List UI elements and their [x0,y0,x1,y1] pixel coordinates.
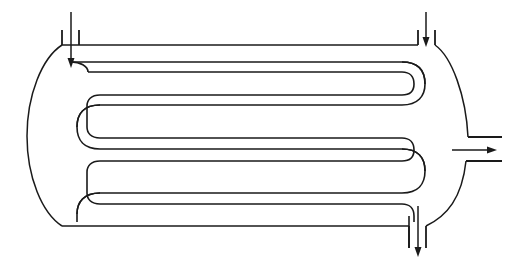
nozzle-outlet-right [452,137,502,161]
shell-left-head [27,45,62,226]
coil-outer-wall [71,62,425,222]
diagram-canvas [0,0,511,270]
shell-right-head-upper [435,45,468,137]
inlet-top-left-arrow-icon [68,58,75,68]
coil-inner-wall [87,72,414,222]
shell-right-head-lower [426,161,466,226]
inlet-top-right-arrow-icon [423,37,430,47]
serpentine-coil-group [71,62,425,248]
outlet-right-arrow-icon [487,147,497,154]
coil-left-return-1 [71,62,88,72]
nozzle-inlet-top-right [418,12,435,47]
heat-exchanger-diagram [0,0,511,270]
coil-left-return-2 [77,105,100,127]
outlet-bottom-arrow-icon [415,247,422,257]
nozzle-outlet-bottom [409,206,426,257]
nozzle-inlet-top-left [62,12,79,68]
